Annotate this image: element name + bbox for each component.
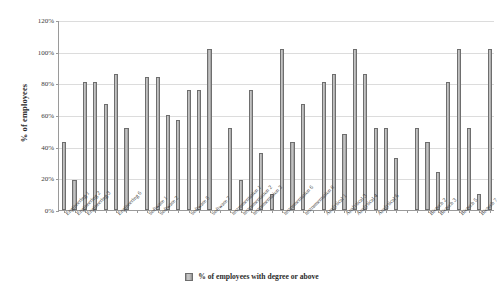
bar: [394, 158, 398, 210]
bar: [124, 128, 128, 210]
y-tick-label: 60%: [41, 112, 54, 120]
bar: [477, 194, 481, 210]
bar: [166, 115, 170, 210]
bar: [457, 49, 461, 211]
bar: [156, 77, 160, 210]
bar: [425, 142, 429, 210]
bar: [467, 128, 471, 210]
bar: [446, 82, 450, 210]
y-tick-label: 120%: [38, 17, 54, 25]
plot-wrapper: 0%20%40%60%80%100%120%: [58, 21, 494, 211]
chart-legend: % of employees with degree or above: [0, 272, 504, 281]
bar: [488, 49, 492, 211]
bar: [353, 49, 357, 211]
x-axis-labels: Engineering 1Engineering 2Engineering 3E…: [58, 212, 494, 272]
legend-label: % of employees with degree or above: [198, 272, 318, 281]
bars-layer: [59, 21, 494, 210]
bar-chart: % of employees 0%20%40%60%80%100%120% En…: [0, 0, 504, 299]
bar: [384, 128, 388, 210]
y-tick-label: 0%: [45, 207, 54, 215]
y-tick-label: 20%: [41, 175, 54, 183]
bar: [62, 142, 66, 210]
y-tick-label: 40%: [41, 144, 54, 152]
bar: [187, 90, 191, 210]
bar: [363, 74, 367, 210]
bar: [145, 77, 149, 210]
y-axis-title: % of employees: [19, 53, 29, 173]
y-tick-label: 80%: [41, 80, 54, 88]
plot-area: 0%20%40%60%80%100%120%: [58, 21, 494, 211]
bar: [415, 128, 419, 210]
bar: [197, 90, 201, 210]
bar: [207, 49, 211, 211]
bar: [114, 74, 118, 210]
legend-swatch-icon: [185, 273, 193, 281]
y-tick-label: 100%: [38, 49, 54, 57]
